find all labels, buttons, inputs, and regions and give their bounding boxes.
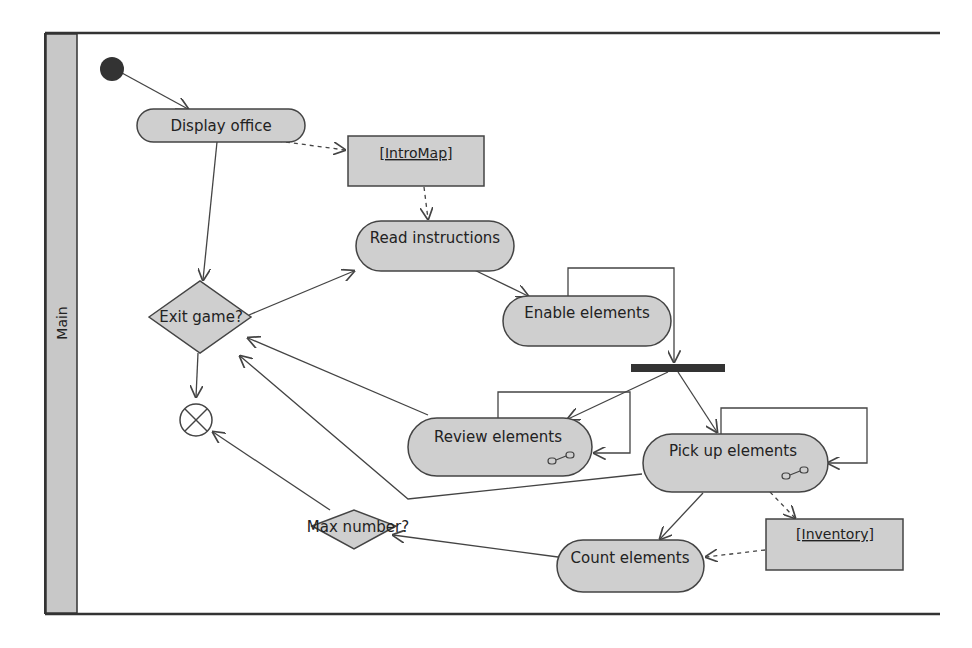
final-node[interactable] xyxy=(180,404,212,436)
activity-label: Read instructions xyxy=(370,229,500,247)
fork-bar[interactable] xyxy=(631,364,725,372)
activity-count-elements[interactable]: Count elements xyxy=(557,540,704,592)
activity-read-instructions[interactable]: Read instructions xyxy=(356,221,514,271)
activity-label: Display office xyxy=(170,117,271,135)
activity-label: Pick up elements xyxy=(669,442,797,460)
decision-exit-game[interactable]: Exit game? xyxy=(149,281,251,353)
activity-review-elements[interactable]: Review elements xyxy=(408,418,592,476)
activity-pick-up-elements[interactable]: Pick up elements xyxy=(643,434,828,492)
activity-label: Review elements xyxy=(434,428,562,446)
activity-label: Enable elements xyxy=(524,304,650,322)
activity-diagram: Main Display office Rea xyxy=(0,0,972,648)
object-flows xyxy=(278,141,795,557)
object-inventory[interactable]: [Inventory] xyxy=(766,519,903,570)
activity-label: Count elements xyxy=(571,549,690,567)
decision-max-number[interactable]: Max number? xyxy=(307,510,409,549)
activity-enable-elements[interactable]: Enable elements xyxy=(503,296,671,346)
swimlane-label: Main xyxy=(54,306,70,339)
swimlane-main[interactable]: Main xyxy=(46,34,77,613)
activity-display-office[interactable]: Display office xyxy=(137,109,305,142)
initial-node[interactable] xyxy=(100,57,124,81)
object-label: [Inventory] xyxy=(796,526,874,542)
object-intro-map[interactable]: [IntroMap] xyxy=(348,136,484,186)
object-label: [IntroMap] xyxy=(380,145,453,161)
decision-label: Max number? xyxy=(307,518,409,536)
decision-label: Exit game? xyxy=(159,308,243,326)
